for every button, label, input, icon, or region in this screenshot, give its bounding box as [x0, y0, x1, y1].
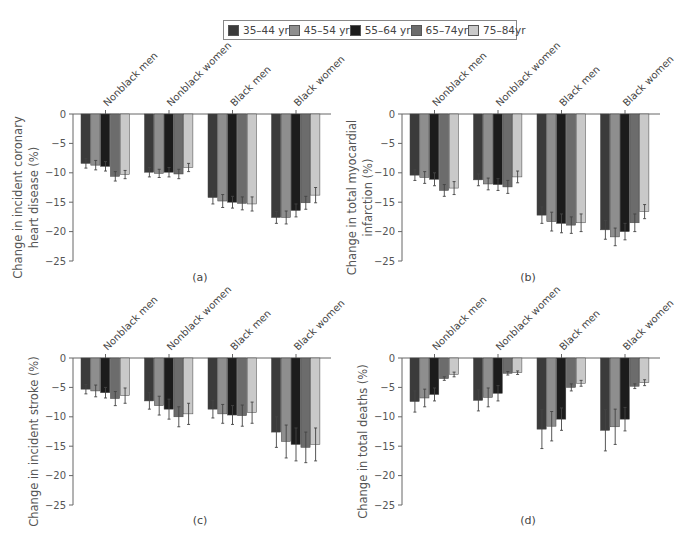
category-label: Black women [621, 53, 676, 108]
bar [630, 358, 639, 386]
category-label: Nonblack women [494, 284, 563, 353]
bar [101, 114, 110, 166]
y-tick-label: −10 [374, 167, 395, 178]
y-tick-label: −5 [380, 138, 395, 149]
bar [272, 114, 281, 217]
bar [449, 114, 458, 188]
bar [154, 114, 163, 173]
y-axis-label: infarction (%) [361, 159, 375, 237]
y-tick-label: −10 [45, 411, 66, 422]
y-tick-label: −5 [380, 382, 395, 393]
bar [281, 114, 290, 217]
y-axis-label: Change in total deaths (%) [356, 364, 370, 519]
category-label: Black men [557, 64, 602, 109]
bar [566, 114, 575, 225]
bar [537, 114, 546, 215]
bar [640, 358, 649, 383]
bar [610, 114, 619, 237]
bar [164, 114, 173, 172]
category-label: Black men [228, 308, 273, 353]
y-tick-label: 0 [60, 109, 66, 120]
panel-label: (c) [193, 514, 208, 527]
bar [557, 114, 566, 223]
category-label: Nonblack men [430, 50, 489, 109]
panel-label: (b) [520, 271, 536, 284]
bar [620, 114, 629, 232]
y-tick-label: 0 [60, 353, 66, 364]
bar [237, 114, 246, 203]
y-tick-label: −25 [45, 256, 66, 267]
bar [601, 114, 610, 230]
bar [81, 114, 90, 163]
y-tick-label: −20 [45, 226, 66, 237]
bar [91, 114, 100, 165]
bar [301, 114, 310, 203]
category-label: Nonblack women [165, 284, 234, 353]
bar [630, 114, 639, 223]
bar [291, 114, 300, 210]
bar [547, 114, 556, 222]
bar [420, 114, 429, 178]
y-tick-label: −15 [45, 197, 66, 208]
bar [483, 114, 492, 184]
category-label: Black men [557, 308, 602, 353]
y-tick-label: −5 [51, 382, 66, 393]
bar [576, 114, 585, 223]
y-axis-label: heart disease (%) [27, 147, 41, 249]
bar [503, 114, 512, 187]
y-axis-label: Change in incident coronary [11, 116, 25, 279]
bar [410, 114, 419, 175]
y-axis-label: Change in total myocardial [345, 120, 359, 275]
bar [474, 114, 483, 180]
y-tick-label: 0 [389, 353, 395, 364]
y-tick-label: −20 [374, 226, 395, 237]
bar [110, 114, 119, 176]
bar [576, 358, 585, 383]
bar [247, 114, 256, 204]
y-tick-label: −25 [374, 500, 395, 511]
bar [228, 114, 237, 202]
y-tick-label: −10 [374, 411, 395, 422]
category-label: Black women [292, 53, 347, 108]
y-tick-label: 0 [389, 109, 395, 120]
category-label: Black men [228, 64, 273, 109]
y-tick-label: −10 [45, 167, 66, 178]
bar [218, 114, 227, 201]
y-tick-label: −20 [45, 470, 66, 481]
bar [640, 114, 649, 212]
category-label: Nonblack men [101, 50, 160, 109]
category-label: Nonblack men [430, 294, 489, 353]
bar [493, 114, 502, 185]
y-axis-label: Change in incident stroke (%) [27, 356, 41, 527]
y-tick-label: −5 [51, 138, 66, 149]
bar [145, 114, 154, 172]
category-label: Black women [621, 297, 676, 352]
y-tick-label: −25 [374, 256, 395, 267]
y-tick-label: −15 [374, 441, 395, 452]
y-tick-label: −25 [45, 500, 66, 511]
y-tick-label: −15 [374, 197, 395, 208]
bar [430, 114, 439, 179]
bar [208, 114, 217, 197]
category-label: Nonblack women [165, 40, 234, 109]
bar [311, 114, 320, 195]
panel-label: (d) [520, 514, 536, 527]
y-tick-label: −15 [45, 441, 66, 452]
bar [566, 358, 575, 387]
bar [174, 114, 183, 174]
panel-label: (a) [192, 271, 207, 284]
bar [439, 114, 448, 190]
bar [439, 358, 448, 379]
bar [513, 114, 522, 177]
category-label: Nonblack women [494, 40, 563, 109]
bar [120, 114, 129, 175]
y-tick-label: −20 [374, 470, 395, 481]
chart-canvas: 0−5−10−15−20−25Nonblack menNonblack wome… [0, 0, 680, 541]
bar [184, 114, 193, 168]
category-label: Nonblack men [101, 294, 160, 353]
bar [503, 358, 512, 373]
category-label: Black women [292, 297, 347, 352]
